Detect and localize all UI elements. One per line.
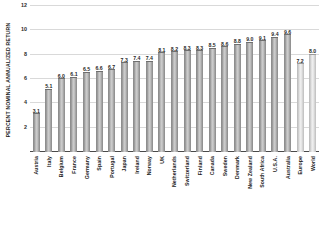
bar[interactable]: 9.0 xyxy=(246,42,253,153)
bar-value-label: 9.1 xyxy=(259,35,266,41)
x-tick-label: Netherlands xyxy=(171,156,177,187)
x-tick-label: Denmark xyxy=(234,156,240,179)
x-label-slot: Australia xyxy=(281,154,294,224)
x-label-slot: Germany xyxy=(80,154,93,224)
bar-value-label: 8.3 xyxy=(196,45,203,51)
bar-slot: 7.4 xyxy=(131,6,144,152)
bar-slot: 6.1 xyxy=(68,6,81,152)
x-tick-label: New Zealand xyxy=(247,156,253,189)
bar[interactable]: 8.8 xyxy=(234,44,241,152)
bar-slot: 9.6 xyxy=(281,6,294,152)
bar-slot: 8.6 xyxy=(218,6,231,152)
bar[interactable]: 6.0 xyxy=(58,78,65,152)
x-tick-label: UK xyxy=(159,156,165,164)
bar-value-label: 7.2 xyxy=(296,58,303,64)
bar[interactable]: 8.3 xyxy=(184,50,191,152)
x-label-slot: UK xyxy=(156,154,169,224)
x-label-slot: Denmark xyxy=(231,154,244,224)
x-label-slot: Sweden xyxy=(218,154,231,224)
bar[interactable]: 9.6 xyxy=(284,34,291,152)
bar-slot: 9.4 xyxy=(269,6,282,152)
x-label-slot: Switzerland xyxy=(181,154,194,224)
x-tick-label: Germany xyxy=(84,156,90,179)
bar-slot: 9.1 xyxy=(256,6,269,152)
x-tick-label: Finland xyxy=(197,156,203,175)
x-tick-label: U.S.A. xyxy=(272,156,278,172)
x-tick-label: South Africa xyxy=(259,156,265,188)
bar-value-label: 8.5 xyxy=(209,42,216,48)
bar-slot: 8.8 xyxy=(231,6,244,152)
x-tick-label: Portugal xyxy=(109,156,115,178)
bar[interactable]: 7.2 xyxy=(297,63,304,152)
bar[interactable]: 8.2 xyxy=(171,51,178,152)
bar-slot: 7.2 xyxy=(294,6,307,152)
plot-area: 24681012 3.15.16.06.16.56.66.77.37.47.48… xyxy=(30,6,319,152)
bar[interactable]: 7.3 xyxy=(121,62,128,152)
bar-slot: 5.1 xyxy=(43,6,56,152)
bar-value-label: 8.2 xyxy=(171,46,178,52)
bar-value-label: 7.4 xyxy=(146,55,153,61)
bar[interactable]: 5.1 xyxy=(45,89,52,152)
x-tick-label: Norway xyxy=(146,156,152,175)
x-tick-label: Europe xyxy=(297,156,303,174)
bar-series: 3.15.16.06.16.56.66.77.37.47.48.18.28.38… xyxy=(30,6,319,152)
x-label-slot: France xyxy=(68,154,81,224)
bar[interactable]: 7.4 xyxy=(133,61,140,152)
bar-value-label: 9.0 xyxy=(246,36,253,42)
bar[interactable]: 6.5 xyxy=(83,72,90,152)
bar[interactable]: 6.6 xyxy=(96,71,103,152)
x-label-slot: Netherlands xyxy=(168,154,181,224)
x-label-slot: Ireland xyxy=(131,154,144,224)
bar-value-label: 7.3 xyxy=(121,57,128,63)
x-label-slot: U.S.A. xyxy=(269,154,282,224)
bar-slot: 8.1 xyxy=(156,6,169,152)
bar[interactable]: 8.1 xyxy=(158,52,165,152)
bar[interactable]: 3.1 xyxy=(33,113,40,152)
bar-value-label: 8.1 xyxy=(158,47,165,53)
bar-value-label: 5.1 xyxy=(45,83,52,89)
x-label-slot: New Zealand xyxy=(244,154,257,224)
x-tick-label: Austria xyxy=(33,156,39,175)
y-tick-label: 10 xyxy=(21,26,27,32)
bar-slot: 9.0 xyxy=(244,6,257,152)
bar-slot: 8.3 xyxy=(181,6,194,152)
bar-value-label: 6.0 xyxy=(58,73,65,79)
bar-value-label: 9.6 xyxy=(284,29,291,35)
bar[interactable]: 9.1 xyxy=(259,40,266,152)
y-tick-label: 4 xyxy=(24,99,27,105)
bar[interactable]: 6.1 xyxy=(70,77,77,152)
bar-value-label: 8.8 xyxy=(234,38,241,44)
bar-slot: 7.4 xyxy=(143,6,156,152)
x-label-slot: Canada xyxy=(206,154,219,224)
bar-value-label: 6.6 xyxy=(95,65,102,71)
bar[interactable]: 6.7 xyxy=(108,69,115,152)
bar[interactable]: 8.5 xyxy=(209,48,216,152)
bar-value-label: 6.1 xyxy=(70,71,77,77)
x-label-slot: Japan xyxy=(118,154,131,224)
bar-value-label: 8.0 xyxy=(309,48,316,54)
x-tick-label: Spain xyxy=(96,156,102,171)
bar[interactable]: 9.4 xyxy=(271,37,278,152)
y-axis-title: PERCENT NOMINAL ANNUALIZED RETURN xyxy=(0,0,16,160)
y-tick-label: 8 xyxy=(24,51,27,57)
bar-value-label: 8.6 xyxy=(221,41,228,47)
bar-value-label: 8.3 xyxy=(183,45,190,51)
x-tick-label: Canada xyxy=(209,156,215,175)
bar-slot: 6.0 xyxy=(55,6,68,152)
x-axis-labels: AustriaItalyBelgiumFranceGermanySpainPor… xyxy=(30,154,319,224)
x-label-slot: World xyxy=(306,154,319,224)
bar[interactable]: 8.6 xyxy=(221,46,228,152)
bar-slot: 6.6 xyxy=(93,6,106,152)
bar[interactable]: 8.0 xyxy=(309,54,316,152)
x-label-slot: South Africa xyxy=(256,154,269,224)
y-tick-label: 2 xyxy=(24,124,27,130)
bar[interactable]: 7.4 xyxy=(146,61,153,152)
bar-chart: PERCENT NOMINAL ANNUALIZED RETURN 246810… xyxy=(0,0,323,227)
y-tick-label: 6 xyxy=(24,75,27,81)
x-label-slot: Finland xyxy=(193,154,206,224)
x-label-slot: Italy xyxy=(43,154,56,224)
bar[interactable]: 8.3 xyxy=(196,50,203,152)
bar-value-label: 3.1 xyxy=(33,108,40,114)
bar-slot: 8.5 xyxy=(206,6,219,152)
y-axis-title-text: PERCENT NOMINAL ANNUALIZED RETURN xyxy=(5,23,11,138)
